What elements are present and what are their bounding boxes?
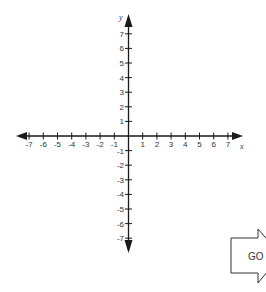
x-axis-right-arrow-icon: [232, 132, 243, 140]
x-tick-label: -5: [54, 140, 62, 149]
x-tick-label: 7: [226, 140, 231, 149]
y-axis-up-arrow-icon: [125, 14, 133, 27]
y-tick-label: 3: [120, 88, 125, 97]
y-tick-label: -1: [117, 147, 125, 156]
go-button[interactable]: GO: [231, 229, 266, 283]
y-tick-label: 1: [120, 117, 125, 126]
x-tick-label: 4: [183, 140, 188, 149]
go-label: GO: [248, 251, 264, 262]
y-tick-label: 6: [120, 44, 125, 53]
axes: [16, 14, 243, 253]
y-axis-down-arrow-icon: [125, 240, 133, 253]
y-tick-label: -4: [117, 190, 125, 199]
x-axis-label: x: [239, 142, 244, 151]
x-tick-label: -7: [26, 140, 34, 149]
x-tick-label: 5: [197, 140, 202, 149]
coordinate-plane: -7-6-5-4-3-2-11234567 7654321-1-2-3-4-5-…: [0, 0, 266, 292]
x-axis-left-arrow-icon: [16, 132, 27, 140]
y-tick-label: -7: [117, 234, 125, 243]
y-tick-label: -2: [117, 161, 125, 170]
y-tick-label: 7: [120, 30, 125, 39]
x-tick-label: 2: [155, 140, 160, 149]
x-tick-label: 3: [169, 140, 174, 149]
x-tick-label: -6: [40, 140, 48, 149]
y-tick-label: -3: [117, 176, 125, 185]
x-tick-label: -4: [68, 140, 76, 149]
x-tick-label: 6: [211, 140, 216, 149]
y-tick-label: -6: [117, 220, 125, 229]
y-tick-label: 5: [120, 59, 125, 68]
y-tick-label: -5: [117, 205, 125, 214]
x-tick-label: -3: [82, 140, 90, 149]
y-axis-label: y: [118, 13, 123, 22]
x-tick-label: -2: [97, 140, 105, 149]
x-tick-label: 1: [140, 140, 145, 149]
y-tick-label: 2: [120, 103, 125, 112]
y-tick-label: 4: [120, 74, 125, 83]
